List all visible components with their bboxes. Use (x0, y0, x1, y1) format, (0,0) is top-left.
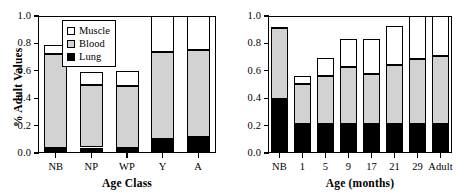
x-axis-tick (440, 153, 441, 158)
y-axis-tick-label: 1.0 (248, 11, 261, 21)
bar-segment-lung (409, 124, 426, 153)
legend-item-label: Lung (79, 51, 101, 62)
bar-segment-blood (187, 50, 210, 138)
bar-segment-blood (44, 54, 67, 148)
bar-segment-muscle (432, 16, 449, 56)
legend-swatch-icon (67, 27, 75, 35)
bar-segment-lung (151, 139, 174, 153)
y-axis-tick (34, 98, 39, 99)
x-axis-tick (302, 153, 303, 158)
stacked-bar (151, 16, 174, 153)
bar-segment-muscle (80, 72, 103, 85)
bar-segment-lung (271, 99, 288, 153)
bar-segment-muscle (409, 16, 426, 59)
y-axis-tick (264, 15, 269, 16)
stacked-bar (317, 58, 334, 153)
x-axis-tick-label: 9 (346, 161, 351, 172)
x-axis-title: Age (months) (326, 177, 395, 189)
chart-panel-age-months: 0.00.20.40.60.81.0NB159172129AdultAge (m… (232, 0, 469, 196)
bar-segment-muscle (151, 16, 174, 52)
bar-segment-blood (271, 28, 288, 99)
x-axis-tick-label: NP (85, 161, 99, 172)
legend-item: Blood (67, 37, 110, 50)
legend: MuscleBloodLung (62, 20, 116, 67)
stacked-bar (409, 16, 426, 153)
bar-segment-blood (386, 65, 403, 124)
x-axis-tick-label: 5 (323, 161, 328, 172)
stacked-bar (116, 71, 139, 153)
x-axis-tick-label: NB (272, 161, 287, 172)
bar-segment-lung (340, 124, 357, 153)
x-axis-tick-label: 29 (412, 161, 423, 172)
x-axis-tick-label: Adult (428, 161, 452, 172)
bar-segment-muscle (340, 39, 357, 68)
stacked-bar (340, 39, 357, 153)
x-axis-title: Age Class (102, 177, 152, 189)
stacked-bar (294, 76, 311, 153)
x-axis-tick (279, 153, 280, 158)
figure: 0.00.20.40.60.81.0% Adult ValuesNBNPWPYA… (0, 0, 469, 196)
stacked-bar (187, 16, 210, 153)
stacked-bar (363, 39, 380, 153)
x-axis-tick-label: NB (48, 161, 63, 172)
stacked-bar (271, 27, 288, 153)
x-axis-tick-label: 1 (300, 161, 305, 172)
y-axis-tick-label: 1.0 (18, 11, 31, 21)
y-axis-tick-label: 0.8 (248, 38, 261, 48)
bar-segment-blood (317, 76, 334, 124)
x-axis-tick (162, 153, 163, 158)
y-axis-tick (34, 70, 39, 71)
x-axis-tick (126, 153, 127, 158)
y-axis-title: % Adult Values (12, 47, 24, 127)
y-axis-tick (264, 43, 269, 44)
y-axis-tick (264, 152, 269, 153)
bar-segment-lung (386, 124, 403, 153)
stacked-bar (80, 72, 103, 153)
y-axis-tick (34, 15, 39, 16)
bar-segment-blood (340, 67, 357, 124)
x-axis-tick (371, 153, 372, 158)
bar-segment-blood (432, 56, 449, 125)
stacked-bar (386, 26, 403, 153)
legend-swatch-icon (67, 40, 75, 48)
bar-segment-blood (151, 52, 174, 138)
x-axis-tick (91, 153, 92, 158)
bar-segment-blood (116, 86, 139, 148)
legend-swatch-icon (67, 53, 75, 61)
x-axis-tick (325, 153, 326, 158)
y-axis-tick (264, 98, 269, 99)
y-axis-tick-label: 0.6 (248, 66, 261, 76)
legend-item-label: Muscle (79, 25, 110, 36)
x-axis-tick-label: Y (159, 161, 167, 172)
x-axis-tick-label: 17 (366, 161, 377, 172)
bar-segment-blood (409, 59, 426, 124)
bar-segment-muscle (317, 58, 334, 76)
bar-segment-blood (294, 84, 311, 124)
legend-item-label: Blood (79, 38, 105, 49)
bar-segment-lung (187, 137, 210, 153)
bar-segment-muscle (294, 76, 311, 84)
bar-segment-lung (363, 124, 380, 153)
bar-segment-blood (363, 74, 380, 125)
x-axis-tick (198, 153, 199, 158)
y-axis-tick (34, 125, 39, 126)
y-axis-tick-label: 0.2 (248, 121, 261, 131)
y-axis-tick (34, 152, 39, 153)
x-axis-tick-label: A (194, 161, 202, 172)
bar-segment-muscle (116, 71, 139, 86)
bar-segment-muscle (363, 39, 380, 73)
chart-panel-age-class: 0.00.20.40.60.81.0% Adult ValuesNBNPWPYA… (0, 0, 232, 196)
legend-item: Lung (67, 50, 110, 63)
bar-segment-muscle (187, 16, 210, 50)
bar-segment-lung (432, 124, 449, 153)
bar-segment-lung (317, 124, 334, 153)
y-axis-tick (34, 43, 39, 44)
y-axis-tick-label: 0.0 (248, 148, 261, 158)
y-axis-tick-label: 0.4 (248, 93, 261, 103)
x-axis-tick-label: 21 (389, 161, 400, 172)
y-axis-tick-label: 0.0 (18, 148, 31, 158)
x-axis-tick-label: WP (119, 161, 135, 172)
y-axis-tick (264, 125, 269, 126)
stacked-bar (432, 16, 449, 153)
bar-segment-muscle (386, 26, 403, 65)
